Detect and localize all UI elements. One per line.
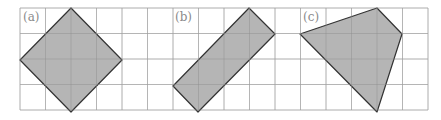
panel-label-b: (b) xyxy=(175,10,192,24)
shapes xyxy=(20,8,402,112)
panel-label-c: (c) xyxy=(303,10,319,24)
grid-figure: (a) (b) (c) xyxy=(0,0,441,120)
panel-label-a: (a) xyxy=(23,10,40,24)
